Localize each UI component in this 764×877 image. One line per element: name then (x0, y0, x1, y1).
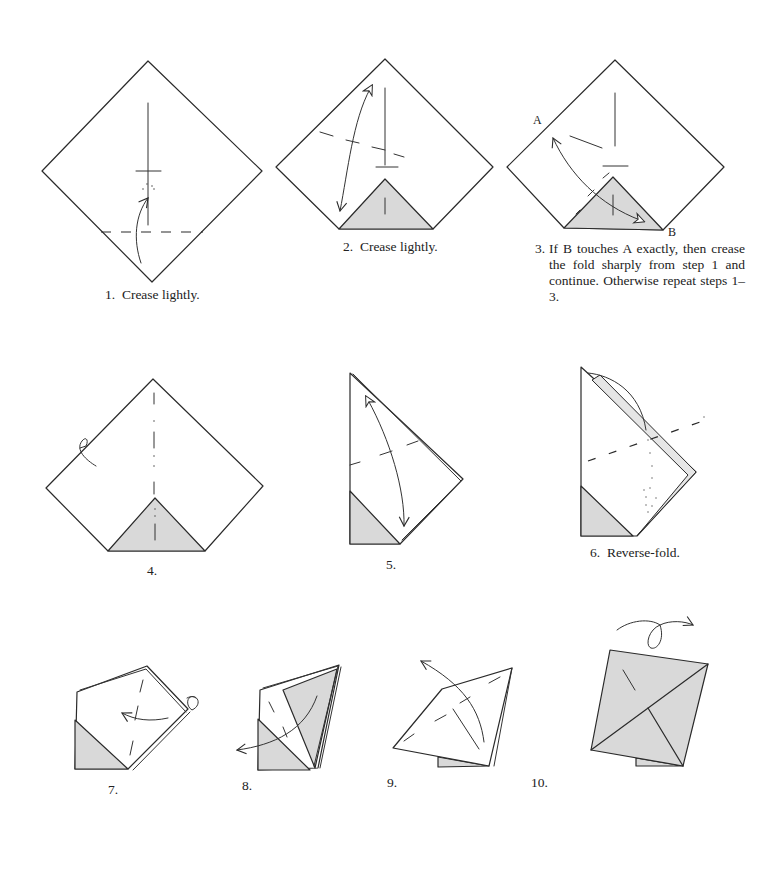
step-1-caption: 1. Crease lightly. (105, 287, 200, 303)
step-number: 3. (535, 241, 549, 305)
step-7-caption: 7. (108, 782, 118, 798)
step-2-caption: 2. Crease lightly. (343, 239, 438, 255)
turn-over-arrow (617, 621, 693, 648)
step-number: 5. (386, 557, 396, 572)
step-1-diagram (42, 61, 262, 282)
step-3-caption: 3. If B touches A exactly, then crease t… (535, 241, 745, 305)
step-number: 2. (343, 239, 353, 254)
step-text: If B touches A exactly, then crease the … (549, 241, 745, 305)
step-9-caption: 9. (387, 775, 397, 791)
step-8-diagram (237, 665, 341, 770)
step-2-diagram (276, 59, 493, 229)
step-number: 8. (242, 778, 252, 793)
step-number: 7. (108, 782, 118, 797)
step-8-caption: 8. (242, 778, 252, 794)
turn-over-arrow (187, 696, 198, 710)
step-5-caption: 5. (386, 557, 396, 573)
step-text: Crease lightly. (360, 239, 438, 254)
step-number: 9. (387, 775, 397, 790)
step-6-diagram (581, 367, 705, 536)
step-text: Reverse-fold. (607, 545, 680, 560)
step-4-caption: 4. (147, 563, 157, 579)
step-number: 10. (531, 775, 548, 790)
step-number: 6. (590, 545, 600, 560)
step-6-caption: 6. Reverse-fold. (590, 545, 680, 561)
step-number: 1. (105, 287, 115, 302)
folded-square (591, 650, 708, 766)
step-text: Crease lightly. (122, 287, 200, 302)
step-4-diagram (46, 379, 263, 551)
step-9-diagram (393, 661, 512, 767)
step-10-caption: 10. (531, 775, 548, 791)
step-number: 4. (147, 563, 157, 578)
step-5-diagram (350, 373, 463, 544)
diagram-canvas: A B (0, 0, 764, 877)
point-label-a: A (533, 113, 542, 127)
point-label-b: B (668, 225, 676, 239)
step-10-diagram (591, 621, 708, 766)
step-7-diagram (75, 666, 198, 770)
step-3-diagram: A B (507, 60, 724, 239)
